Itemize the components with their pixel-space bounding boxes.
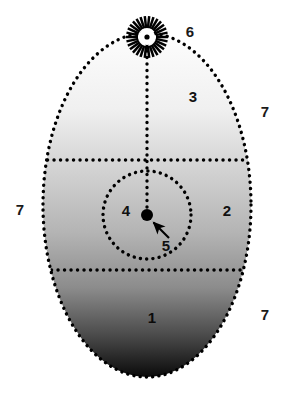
label-7-left: 7 [16,201,24,218]
label-5: 5 [162,237,170,254]
figure-container: 123456777 [0,0,285,397]
center-point-marker [141,209,153,221]
label-7-right-bottom: 7 [261,306,269,323]
label-6: 6 [186,23,194,40]
label-2: 2 [223,202,231,219]
starburst-center-dot [144,34,149,39]
label-1: 1 [148,309,156,326]
label-7-right-top: 7 [261,103,269,120]
label-4: 4 [122,202,131,219]
label-3: 3 [189,88,197,105]
diagram-canvas: 123456777 [0,0,285,397]
